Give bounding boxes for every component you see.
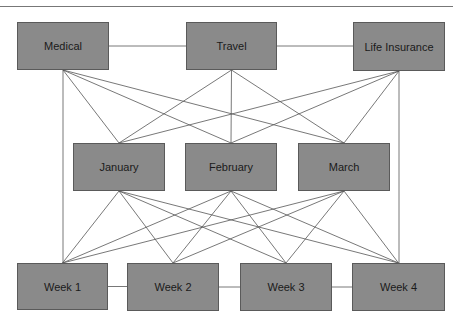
network-diagram: MedicalTravelLife InsuranceJanuaryFebrua…: [0, 0, 460, 328]
node-w2: Week 2: [127, 263, 219, 311]
node-label: Medical: [44, 40, 82, 52]
node-feb: February: [185, 143, 277, 191]
edge-medical-jan: [63, 70, 119, 143]
edge-mar-w4: [344, 191, 399, 263]
node-w1: Week 1: [17, 263, 108, 310]
edge-travel-jan: [119, 70, 232, 143]
edge-travel-feb: [231, 70, 232, 143]
node-w4: Week 4: [352, 263, 445, 311]
node-label: March: [329, 161, 360, 173]
node-label: Week 3: [267, 281, 304, 293]
node-mar: March: [298, 143, 390, 191]
node-label: Week 1: [44, 281, 81, 293]
edge-life-mar: [344, 71, 399, 143]
edge-medical-mar: [63, 70, 344, 143]
node-label: Life Insurance: [364, 41, 433, 53]
edge-mar-w2: [173, 191, 344, 263]
edge-mar-w3: [286, 191, 344, 263]
node-label: Week 4: [380, 281, 417, 293]
node-jan: January: [73, 143, 165, 191]
edge-mar-w1: [63, 191, 345, 263]
edge-jan-w1: [63, 191, 120, 263]
node-w3: Week 3: [240, 263, 332, 311]
node-travel: Travel: [186, 22, 277, 70]
node-medical: Medical: [17, 22, 109, 70]
node-label: Travel: [216, 40, 246, 52]
node-label: February: [209, 161, 253, 173]
edge-travel-mar: [232, 70, 345, 143]
edge-medical-feb: [63, 70, 231, 143]
edge-life-jan: [119, 71, 399, 143]
node-life: Life Insurance: [353, 22, 445, 71]
edge-life-feb: [231, 71, 399, 143]
edge-feb-w1: [63, 191, 232, 263]
node-label: Week 2: [154, 281, 191, 293]
node-label: January: [99, 161, 138, 173]
